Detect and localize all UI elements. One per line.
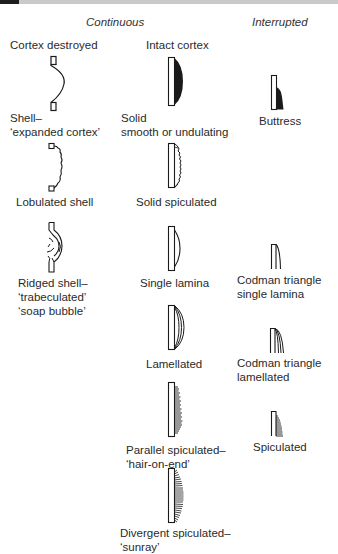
divergent-spiculated-figure [168,468,190,524]
lobulated-shell-figure [48,143,72,193]
label-buttress: Buttress [259,114,301,128]
codman-triangle-single-lamina-figure [271,244,287,270]
header-continuous: Continuous [86,16,144,28]
label-shell: Shell– ‘expanded cortex’ [10,111,100,139]
label-ridged-shell: Ridged shell– ‘trabeculated’ ‘soap bubbl… [18,276,88,318]
label-solid-smooth: Solid smooth or undulating [121,111,228,139]
ridged-shell-soap-bubble-figure [40,222,70,274]
top-edge-dark-block [0,0,19,4]
label-single-lamina: Single lamina [140,276,209,290]
label-lamellated: Lamellated [146,357,202,371]
column-title-cortex-destroyed: Cortex destroyed [10,38,98,52]
label-interrupted-spiculated: Spiculated [253,440,307,454]
shell-expanded-cortex-figure [42,56,72,112]
label-parallel-spiculated: Parallel spiculated– ‘hair-on-end’ [126,443,226,471]
solid-spiculated-figure [168,143,188,189]
label-divergent-spiculated: Divergent spiculated– ‘sunray’ [120,526,231,554]
column-title-intact-cortex: Intact cortex [146,38,209,52]
label-lobulated-shell: Lobulated shell [16,195,93,209]
label-codman-lamellated: Codman triangle lamellated [237,356,321,384]
buttress-figure [271,75,289,111]
lamellated-figure [168,305,190,351]
label-solid-spiculated: Solid spiculated [136,195,217,209]
single-lamina-figure [168,226,188,272]
solid-smooth-figure [168,57,188,107]
header-interrupted: Interrupted [252,16,308,28]
codman-triangle-lamellated-figure [270,328,290,354]
label-codman-single-lamina: Codman triangle single lamina [237,273,321,301]
interrupted-spiculated-figure [271,411,289,437]
top-edge-bar [0,0,338,4]
parallel-spiculated-figure [168,382,190,438]
